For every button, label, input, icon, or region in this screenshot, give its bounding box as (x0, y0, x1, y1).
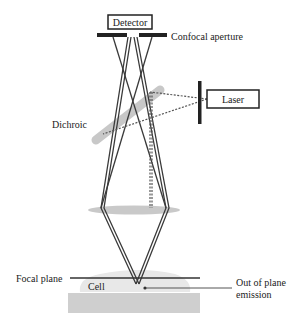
out-of-plane-label-line2: emission (236, 289, 272, 300)
cell-label: Cell (88, 281, 105, 292)
out-of-plane-label-line1: Out of plane (236, 277, 287, 288)
coverslip (68, 293, 200, 313)
laser-label: Laser (222, 94, 245, 105)
dichroic-label: Dichroic (52, 119, 88, 130)
aperture-right (139, 33, 167, 37)
focal-plane-label: Focal plane (16, 273, 63, 284)
detector-label: Detector (113, 17, 148, 28)
emission-rays (101, 37, 169, 284)
confocal-diagram: Detector Laser Confocal aperture Dichroi… (0, 0, 302, 329)
laser-barrier (198, 81, 202, 124)
aperture-left (97, 33, 127, 37)
confocal-aperture-label: Confocal aperture (171, 31, 243, 42)
